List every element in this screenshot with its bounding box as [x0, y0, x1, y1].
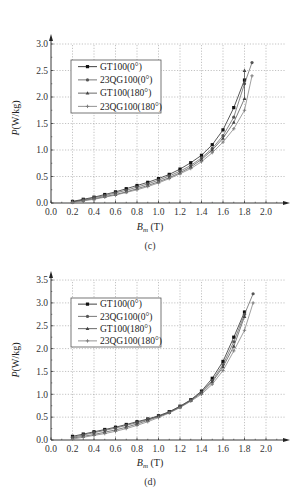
- y-tick-label: 1.5: [36, 367, 48, 377]
- x-tick-label: 1.0: [153, 207, 165, 217]
- y-tick-label: 2.5: [36, 321, 48, 331]
- y-tick-label: 3.5: [36, 275, 48, 285]
- marker-triangle: [243, 69, 247, 72]
- y-axis-arrow-icon: [49, 34, 53, 41]
- y-tick-label: 3.0: [36, 298, 48, 308]
- x-tick-label: 0.4: [88, 207, 100, 217]
- y-axis-title: P(W/kg): [10, 101, 22, 137]
- chart-caption: (c): [144, 240, 155, 252]
- marker-square: [86, 303, 89, 306]
- marker-triangle: [243, 97, 247, 100]
- y-tick-label: 0.5: [36, 172, 48, 182]
- y-tick-label: 2.0: [36, 344, 48, 354]
- x-tick-label: 1.8: [239, 207, 251, 217]
- marker-square: [211, 143, 214, 146]
- x-tick-label: 0.8: [131, 444, 143, 454]
- x-tick-label: 0.0: [45, 207, 57, 217]
- y-tick-label: 2.5: [36, 66, 48, 76]
- marker-cross: [178, 172, 181, 175]
- legend: GT100(0°)23QG100(0°)GT100(180°)23QG100(1…: [71, 60, 162, 113]
- legend-label: 23QG100(180°): [100, 102, 162, 113]
- marker-circle: [252, 292, 255, 295]
- x-tick-label: 2.0: [260, 444, 272, 454]
- y-axis-arrow-icon: [49, 271, 53, 278]
- legend-label: 23QG100(0°): [100, 75, 152, 86]
- x-tick-label: 0.6: [110, 444, 122, 454]
- legend-label: GT100(0°): [100, 62, 142, 73]
- legend-label: GT100(180°): [100, 324, 151, 335]
- x-tick-label: 0.2: [67, 207, 79, 217]
- y-axis-title: P(W/kg): [10, 343, 22, 379]
- chart-caption: (d): [144, 476, 156, 488]
- x-axis-arrow-icon: [283, 438, 290, 442]
- x-tick-label: 1.6: [217, 444, 229, 454]
- x-axis-title: Bm (T): [137, 221, 163, 234]
- marker-cross: [251, 301, 254, 304]
- marker-circle: [86, 315, 89, 318]
- x-tick-label: 1.4: [196, 207, 208, 217]
- x-tick-label: 1.0: [153, 444, 165, 454]
- legend-label: GT100(180°): [100, 88, 151, 99]
- y-tick-label: 2.0: [36, 92, 48, 102]
- marker-square: [86, 65, 89, 68]
- marker-cross: [250, 74, 253, 77]
- legend-label: 23QG100(0°): [100, 312, 152, 323]
- y-tick-label: 1.0: [36, 390, 48, 400]
- x-tick-label: 2.0: [260, 207, 272, 217]
- x-tick-label: 0.2: [67, 444, 79, 454]
- chart-c: 0.00.20.40.60.81.01.21.41.61.82.00.00.51…: [10, 34, 290, 252]
- x-tick-label: 1.4: [196, 444, 208, 454]
- y-tick-label: 0.0: [36, 435, 48, 445]
- x-tick-label: 1.2: [174, 444, 186, 454]
- x-tick-label: 1.2: [174, 207, 186, 217]
- y-tick-label: 1.0: [36, 145, 48, 155]
- marker-circle: [86, 78, 89, 81]
- y-tick-label: 1.5: [36, 119, 48, 129]
- x-tick-label: 1.8: [239, 444, 251, 454]
- marker-circle: [232, 116, 235, 119]
- y-tick-label: 3.0: [36, 39, 48, 49]
- x-axis-arrow-icon: [283, 201, 290, 205]
- marker-triangle: [232, 120, 236, 123]
- marker-circle: [250, 61, 253, 64]
- marker-cross: [243, 109, 246, 112]
- x-tick-label: 0.8: [131, 207, 143, 217]
- figure: 0.00.20.40.60.81.01.21.41.61.82.00.00.51…: [0, 0, 304, 504]
- y-tick-label: 0.5: [36, 412, 48, 422]
- x-tick-label: 1.6: [217, 207, 229, 217]
- x-axis-title: Bm (T): [137, 457, 163, 470]
- marker-cross: [243, 329, 246, 332]
- marker-square: [221, 128, 224, 131]
- y-tick-label: 0.0: [36, 198, 48, 208]
- legend: GT100(0°)23QG100(0°)GT100(180°)23QG100(1…: [71, 298, 162, 347]
- legend-label: GT100(0°): [100, 299, 142, 310]
- legend-label: 23QG100(180°): [100, 336, 162, 347]
- x-tick-label: 0.0: [45, 444, 57, 454]
- marker-square: [232, 106, 235, 109]
- x-tick-label: 0.6: [110, 207, 122, 217]
- chart-d: 0.00.20.40.60.81.01.21.41.61.82.00.00.51…: [10, 271, 290, 488]
- marker-cross: [232, 349, 235, 352]
- x-tick-label: 0.4: [88, 444, 100, 454]
